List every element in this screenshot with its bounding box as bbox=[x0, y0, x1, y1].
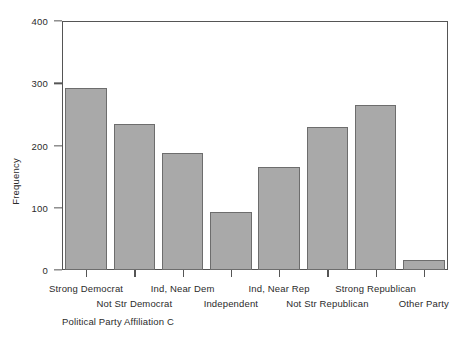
x-tick-label: Strong Republican bbox=[335, 283, 416, 294]
x-tick-mark bbox=[424, 270, 425, 277]
y-axis-title: Frequency bbox=[10, 122, 21, 242]
x-tick-label: Other Party bbox=[399, 298, 449, 309]
x-tick-label: Independent bbox=[204, 298, 258, 309]
bar bbox=[162, 153, 203, 270]
x-tick-label: Strong Democrat bbox=[49, 283, 123, 294]
x-tick-mark bbox=[183, 270, 184, 277]
y-tick-mark bbox=[54, 269, 62, 270]
y-tick-label: 300 bbox=[32, 78, 48, 89]
x-tick-mark bbox=[134, 270, 135, 277]
bar bbox=[355, 105, 396, 270]
x-tick-label: Not Str Democrat bbox=[96, 298, 172, 309]
x-axis-title: Political Party Affiliation C bbox=[62, 316, 174, 327]
y-tick-label: 400 bbox=[32, 16, 48, 27]
x-tick-label: Not Str Republican bbox=[286, 298, 368, 309]
bar bbox=[307, 127, 348, 270]
bar bbox=[114, 124, 155, 270]
y-tick-label: 200 bbox=[32, 140, 48, 151]
bar bbox=[258, 167, 299, 270]
y-tick-label: 0 bbox=[43, 265, 48, 276]
x-tick-mark bbox=[279, 270, 280, 277]
bar-series bbox=[62, 21, 448, 270]
bar bbox=[210, 212, 251, 271]
x-tick-mark bbox=[327, 270, 328, 277]
y-tick-mark bbox=[54, 207, 62, 208]
x-tick-label: Ind, Near Dem bbox=[151, 283, 215, 294]
x-tick-mark bbox=[86, 270, 87, 277]
x-tick-label: Ind, Near Rep bbox=[249, 283, 310, 294]
x-tick-mark bbox=[376, 270, 377, 277]
x-tick-mark bbox=[231, 270, 232, 277]
bar-chart: 0100200300400 Frequency Strong DemocratN… bbox=[0, 0, 459, 338]
bar bbox=[403, 260, 444, 270]
bar bbox=[65, 88, 106, 270]
y-tick-label: 100 bbox=[32, 202, 48, 213]
y-tick-mark bbox=[54, 145, 62, 146]
y-tick-mark bbox=[54, 20, 62, 21]
y-tick-mark bbox=[54, 83, 62, 84]
